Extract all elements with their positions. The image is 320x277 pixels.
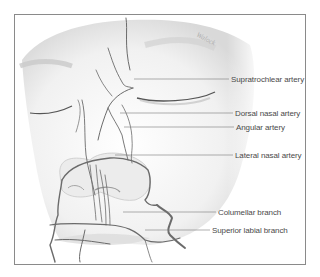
label-dorsal-nasal-artery: Dorsal nasal artery	[235, 109, 300, 118]
label-superior-labial-branch: Superior labial branch	[212, 226, 288, 235]
label-supratrochlear-artery: Supratrochlear artery	[231, 75, 304, 84]
face-illustration: Walock	[0, 0, 320, 277]
label-columellar-branch: Columellar branch	[218, 208, 281, 217]
label-lateral-nasal-artery: Lateral nasal artery	[235, 151, 301, 160]
label-angular-artery: Angular artery	[236, 123, 285, 132]
